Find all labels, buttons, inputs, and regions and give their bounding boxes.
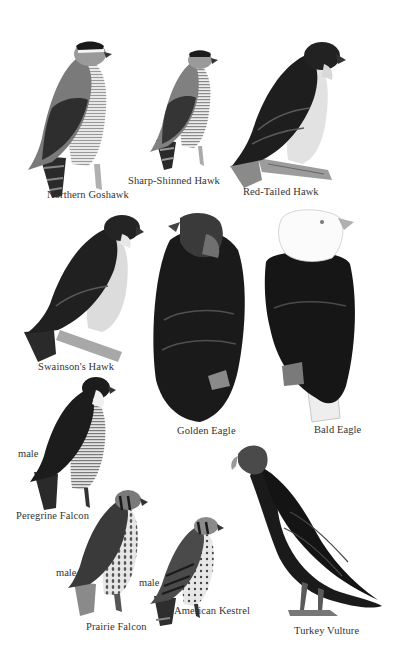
sharp-shinned-hawk-illustration <box>146 48 224 173</box>
prairie-falcon-sex-label: male <box>56 567 76 578</box>
red-tailed-hawk-illustration <box>228 40 350 188</box>
bald-eagle-label: Bald Eagle <box>314 424 361 435</box>
peregrine-falcon-sex-label: male <box>18 448 38 459</box>
red-tailed-hawk-label: Red-Tailed Hawk <box>243 186 319 197</box>
prairie-falcon-illustration <box>68 488 150 618</box>
swainsons-hawk-illustration <box>22 212 144 362</box>
golden-eagle-label: Golden Eagle <box>177 425 236 436</box>
sharp-shinned-hawk-label: Sharp-Shinned Hawk <box>128 175 220 186</box>
bald-eagle-illustration <box>262 208 358 423</box>
swainsons-hawk-label: Swainson's Hawk <box>38 361 114 372</box>
northern-goshawk-label: Northern Goshawk <box>47 189 129 200</box>
american-kestrel-sex-label: male <box>139 577 159 588</box>
northern-goshawk-illustration <box>22 38 124 198</box>
prairie-falcon-label: Prairie Falcon <box>86 621 147 632</box>
golden-eagle-illustration <box>150 210 248 422</box>
turkey-vulture-label: Turkey Vulture <box>294 625 359 636</box>
turkey-vulture-illustration <box>230 442 384 622</box>
raptor-identification-plate: Northern Goshawk Sharp-Shinned Hawk <box>0 0 399 669</box>
